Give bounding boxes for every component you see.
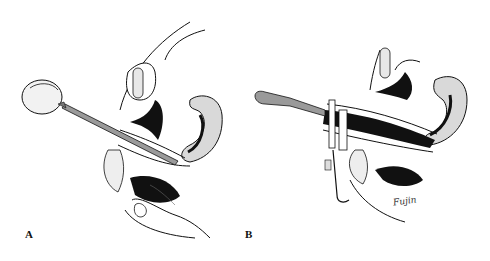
panel-b-illustration: Fujin — [245, 0, 490, 261]
speculum — [255, 91, 349, 202]
panel-a-illustration: A — [0, 0, 245, 261]
anatomy-drawing-b — [245, 0, 490, 261]
panel-label-a: A — [25, 228, 33, 240]
spatula-handle — [255, 91, 325, 116]
panel-label-b: B — [245, 228, 252, 240]
pubic-bone — [133, 68, 143, 98]
pubic-bone — [380, 48, 390, 78]
anatomy-drawing-a — [0, 0, 245, 261]
